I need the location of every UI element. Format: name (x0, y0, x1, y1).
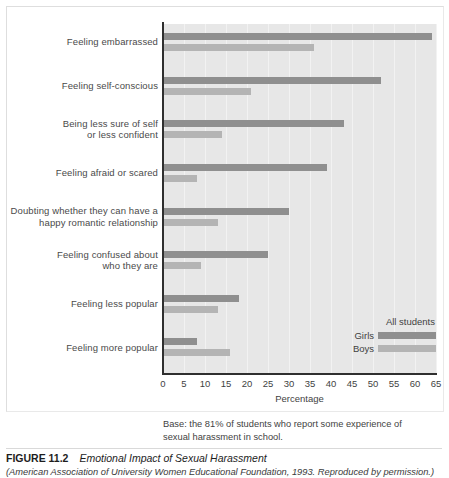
bar-girls (163, 251, 268, 258)
base-note: Base: the 81% of students who report som… (163, 418, 439, 443)
category-axis-labels: Feeling embarrassedFeeling self-consciou… (8, 24, 158, 373)
category-label: Feeling confused aboutwho they are (8, 249, 158, 272)
base-note-line-2: sexual harassment in school. (163, 431, 439, 444)
category-label: Doubting whether they can have ahappy ro… (8, 205, 158, 228)
category-label: Feeling more popular (8, 342, 158, 354)
x-tick-label: 35 (305, 378, 316, 389)
bar-girls (163, 77, 381, 84)
legend-label-boys: Boys (353, 343, 374, 354)
bar-row (163, 33, 436, 53)
caption-heading: FIGURE 11.2 Emotional Impact of Sexual H… (6, 452, 446, 465)
bar-boys (163, 131, 222, 138)
bar-girls (163, 295, 239, 302)
category-label-line: Feeling less popular (8, 298, 158, 310)
legend-label-girls: Girls (354, 330, 374, 341)
bar-row (163, 295, 436, 315)
bar-row (163, 77, 436, 97)
x-tick-label: 50 (368, 378, 379, 389)
legend-swatch-boys (378, 345, 436, 352)
bar-boys (163, 88, 251, 95)
bar-girls (163, 120, 344, 127)
bar-row (163, 164, 436, 184)
figure-source: (American Association of University Wome… (6, 466, 446, 478)
x-tick-label: 45 (347, 378, 358, 389)
category-label-line: Feeling confused about (8, 249, 158, 261)
figure-caption: FIGURE 11.2 Emotional Impact of Sexual H… (6, 452, 446, 478)
x-axis-line (162, 373, 437, 375)
bar-boys (163, 349, 230, 356)
category-label-line: Feeling afraid or scared (8, 167, 158, 179)
bar-girls (163, 33, 432, 40)
legend: All students Girls Boys (330, 316, 436, 356)
bar-row (163, 251, 436, 271)
bar-boys (163, 306, 218, 313)
base-note-line-1: Base: the 81% of students who report som… (163, 418, 439, 431)
bar-boys (163, 219, 218, 226)
category-label: Feeling less popular (8, 298, 158, 310)
x-tick-label: 40 (326, 378, 337, 389)
legend-swatch-girls (378, 332, 436, 339)
category-label-line: Doubting whether they can have a (8, 205, 158, 217)
x-tick-label: 25 (263, 378, 274, 389)
bar-girls (163, 208, 289, 215)
x-tick-label: 0 (160, 378, 165, 389)
category-label-line: happy romantic relationship (8, 217, 158, 229)
x-tick-label: 15 (221, 378, 232, 389)
category-label-line: Being less sure of self (8, 118, 158, 130)
gridline (436, 24, 437, 373)
category-label: Feeling afraid or scared (8, 167, 158, 179)
bar-row (163, 208, 436, 228)
category-label-line: who they are (8, 260, 158, 272)
category-label-line: Feeling self-conscious (8, 80, 158, 92)
caption-divider (6, 448, 442, 449)
legend-title: All students (330, 316, 436, 327)
bar-boys (163, 175, 197, 182)
x-tick-label: 10 (200, 378, 211, 389)
x-tick-label: 55 (389, 378, 400, 389)
x-tick-label: 65 (431, 378, 442, 389)
x-tick-label: 5 (181, 378, 186, 389)
figure-title: Emotional Impact of Sexual Harassment (79, 452, 266, 464)
y-axis-line (162, 22, 164, 375)
x-tick-label: 20 (242, 378, 253, 389)
category-label-line: Feeling embarrassed (8, 36, 158, 48)
legend-item-boys: Boys (330, 343, 436, 354)
category-label-line: or less confident (8, 129, 158, 141)
legend-item-girls: Girls (330, 330, 436, 341)
bar-boys (163, 44, 314, 51)
x-axis-title: Percentage (163, 393, 436, 404)
bar-girls (163, 164, 327, 171)
category-label-line: Feeling more popular (8, 342, 158, 354)
x-tick-label: 60 (410, 378, 421, 389)
bar-girls (163, 338, 197, 345)
x-axis-tick-labels: 05101520253035404550556065 (0, 378, 449, 392)
category-label: Feeling embarrassed (8, 36, 158, 48)
x-tick-label: 30 (284, 378, 295, 389)
category-label: Feeling self-conscious (8, 80, 158, 92)
bar-boys (163, 262, 201, 269)
bar-row (163, 120, 436, 140)
category-label: Being less sure of selfor less confident (8, 118, 158, 141)
figure-number: FIGURE 11.2 (6, 452, 68, 464)
